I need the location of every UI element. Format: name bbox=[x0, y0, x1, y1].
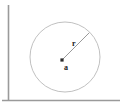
diagram-canvas: r a bbox=[0, 0, 127, 112]
geometry-diagram: r a bbox=[0, 0, 127, 112]
radius-label: r bbox=[72, 39, 76, 48]
center-label: a bbox=[64, 63, 68, 72]
center-point-marker bbox=[60, 58, 63, 61]
